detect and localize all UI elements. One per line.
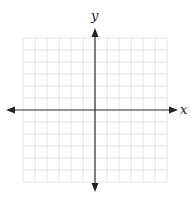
x-axis-label: x bbox=[180, 102, 188, 117]
x-axis-right-arrow-icon bbox=[169, 107, 178, 114]
y-axis-label: y bbox=[90, 8, 99, 23]
coordinate-plane: y x bbox=[0, 0, 191, 201]
y-axis-down-arrow-icon bbox=[92, 183, 99, 192]
x-axis-left-arrow-icon bbox=[6, 107, 15, 114]
y-axis-up-arrow-icon bbox=[92, 28, 99, 37]
